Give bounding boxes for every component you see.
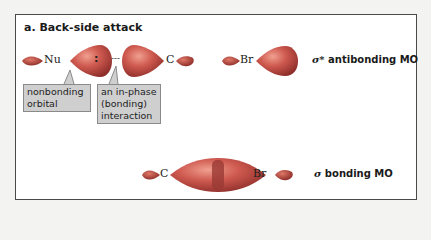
antibonding-label: σ* antibonding MO bbox=[312, 54, 418, 65]
atom-c-bottom: C bbox=[160, 167, 168, 180]
atom-c: C bbox=[166, 53, 174, 66]
c-large-lobe bbox=[122, 45, 164, 77]
atom-nu: Nu bbox=[44, 53, 61, 66]
atom-br: Br bbox=[240, 53, 253, 66]
bonding-text: bonding MO bbox=[325, 168, 393, 179]
antibonding-text: antibonding MO bbox=[328, 54, 418, 65]
bonding-label: σ bonding MO bbox=[314, 168, 393, 179]
node-overlap bbox=[212, 160, 224, 190]
br-bottom-small-lobe bbox=[275, 170, 293, 180]
br-large-lobe bbox=[256, 46, 298, 76]
bond-dashes: --- bbox=[111, 53, 120, 63]
atom-br-bottom: Br bbox=[253, 167, 266, 180]
sigma-symbol: σ bbox=[314, 168, 321, 179]
callout-nonbonding-orbital: nonbonding orbital bbox=[23, 84, 91, 112]
c-bottom-small-lobe bbox=[142, 171, 160, 180]
callout-pointer-1 bbox=[64, 70, 74, 84]
nu-nonbonding-lobe bbox=[70, 45, 112, 77]
callout-in-phase-interaction: an in-phase (bonding) interaction bbox=[97, 84, 161, 124]
c-small-lobe bbox=[176, 56, 194, 66]
br-small-lobe bbox=[222, 57, 240, 66]
electron-pair: : bbox=[94, 52, 98, 65]
nu-small-lobe bbox=[22, 57, 43, 66]
sigma-star-symbol: σ* bbox=[312, 54, 325, 65]
